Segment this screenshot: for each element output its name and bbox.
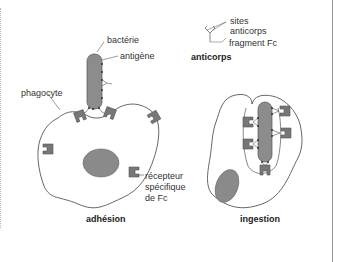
label-recepteur-3: de Fc (145, 193, 168, 203)
adhesion-panel (38, 42, 161, 208)
antibody-legend (205, 22, 226, 42)
caption-adhesion: adhésion (86, 214, 126, 224)
diagram-figure: bactérie antigène phagocyte récepteur sp… (0, 0, 344, 262)
bacterium-ingestion (258, 102, 272, 162)
label-sites-anticorps: anticorps (230, 26, 267, 36)
bacterium-adhesion (87, 54, 102, 109)
caption-anticorps: anticorps (191, 52, 232, 62)
label-sites: sites (230, 16, 249, 26)
ingestion-panel (208, 94, 303, 207)
label-antigene: antigène (120, 51, 155, 61)
label-recepteur-2: spécifique (145, 182, 186, 192)
label-bacterie: bactérie (107, 35, 139, 45)
label-phagocyte: phagocyte (21, 88, 63, 98)
caption-ingestion: ingestion (240, 214, 280, 224)
label-recepteur-1: récepteur (145, 171, 183, 181)
nucleus-adhesion (83, 149, 119, 177)
label-fragment-fc: fragment Fc (229, 38, 277, 48)
phagocytosis-diagram (0, 0, 344, 262)
